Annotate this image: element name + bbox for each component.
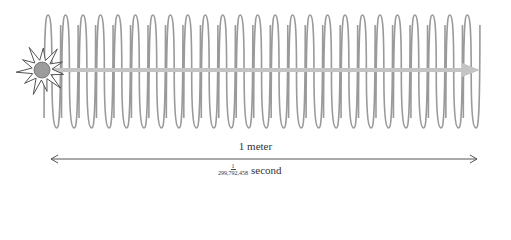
light-source-starburst-icon xyxy=(16,47,64,94)
fraction-denominator: 299,792,458 xyxy=(218,170,248,176)
time-label: 1 299,792,458 second xyxy=(218,163,282,176)
measurement-arrow xyxy=(51,155,477,163)
second-unit-label: second xyxy=(251,164,282,176)
one-meter-label: 1 meter xyxy=(0,140,511,152)
fraction-numerator: 1 xyxy=(231,163,236,170)
fraction: 1 299,792,458 xyxy=(218,163,248,176)
